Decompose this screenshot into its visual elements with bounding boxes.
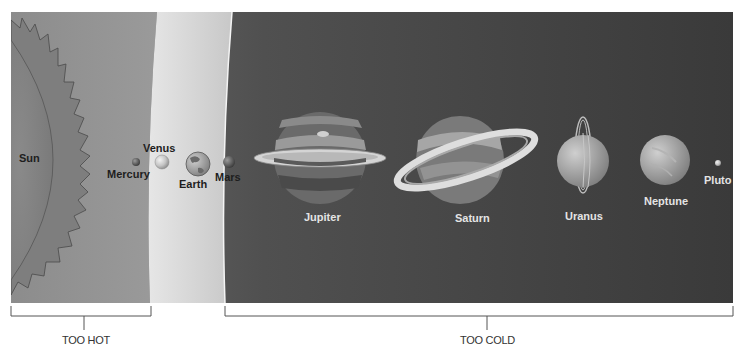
jupiter-label: Jupiter <box>304 211 341 223</box>
too-hot-label: TOO HOT <box>62 334 110 346</box>
neptune-planet <box>640 135 690 185</box>
venus-label: Venus <box>143 142 175 154</box>
zone-panels <box>11 12 733 303</box>
mercury-label: Mercury <box>107 168 150 180</box>
zone-brackets <box>11 306 733 330</box>
saturn-label: Saturn <box>455 212 490 224</box>
mars-label: Mars <box>215 171 241 183</box>
venus-planet <box>155 155 169 169</box>
mercury-planet <box>132 158 140 166</box>
earth-planet <box>186 152 210 176</box>
sun-label: Sun <box>19 152 40 164</box>
too-hot-bracket <box>11 306 151 316</box>
mars-planet <box>223 156 235 168</box>
uranus-label: Uranus <box>565 210 603 222</box>
pluto-label: Pluto <box>704 174 732 186</box>
neptune-label: Neptune <box>644 195 688 207</box>
solar-system-habitable-zone-diagram: Sun Mercury Venus Earth Mars Jupiter Sat… <box>0 0 740 353</box>
too-cold-label: TOO COLD <box>460 334 515 346</box>
pluto-planet <box>715 160 721 166</box>
earth-label: Earth <box>179 178 207 190</box>
too-cold-bracket <box>225 306 733 316</box>
